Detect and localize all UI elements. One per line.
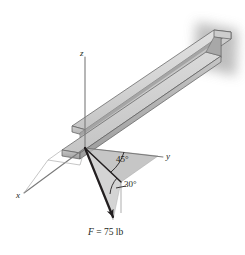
angle-label-45: 45° <box>116 155 129 164</box>
force-equals: = <box>94 227 104 237</box>
y-axis-label: y <box>166 152 170 161</box>
figure-canvas <box>0 0 245 255</box>
angle-label-30: 30° <box>124 180 137 189</box>
i-beam <box>62 30 231 159</box>
force-magnitude: 75 <box>104 227 114 237</box>
z-axis-label: z <box>80 49 84 58</box>
beam-lower-flange-top <box>62 52 221 153</box>
x-axis-label: x <box>16 191 20 200</box>
statics-figure: z y x 45° 30° F = 75 lb <box>0 0 245 255</box>
base-guide-line <box>24 160 48 193</box>
force-unit: lb <box>116 227 123 237</box>
beam-web-shade <box>80 35 222 136</box>
x-axis <box>24 148 85 193</box>
force-label: F = 75 lb <box>88 228 123 238</box>
